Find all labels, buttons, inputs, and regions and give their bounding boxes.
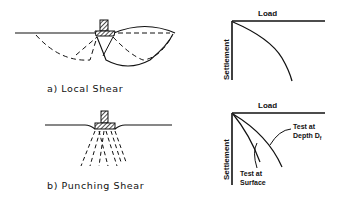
- load-settlement-curve-a: [233, 22, 292, 81]
- depth-test-annotation: Test at Depth Df: [293, 122, 322, 143]
- surface-test-annotation: Test at Surface: [240, 169, 266, 187]
- punching-shear-sketch: [45, 111, 172, 166]
- settlement-axis-label-a: Settlement: [222, 39, 231, 80]
- surface-annotation-line1: Test at: [240, 169, 266, 178]
- depth-annotation-line1: Test at: [293, 122, 322, 131]
- surface-annotation-line2: Surface: [240, 178, 266, 187]
- depth-test-curve: [233, 114, 282, 167]
- footing-b: [95, 111, 115, 129]
- settlement-axis-label-b: Settlement: [222, 139, 231, 180]
- footing-a: [95, 20, 115, 36]
- depth-leader-line: [270, 129, 291, 145]
- load-axis-label-b: Load: [258, 101, 277, 110]
- depth-subscript: f: [320, 135, 322, 141]
- surface-test-curve: [233, 114, 260, 162]
- diagram-canvas: [0, 0, 345, 202]
- depth-annotation-line2: Depth Df: [293, 131, 322, 143]
- load-axis-label-a: Load: [258, 9, 277, 18]
- surface-leader-line: [255, 143, 258, 168]
- caption-punching-shear: b) Punching Shear: [47, 180, 144, 191]
- local-shear-sketch: [15, 20, 175, 66]
- local-shear-graph: [232, 21, 325, 81]
- caption-local-shear: a) Local Shear: [47, 83, 123, 94]
